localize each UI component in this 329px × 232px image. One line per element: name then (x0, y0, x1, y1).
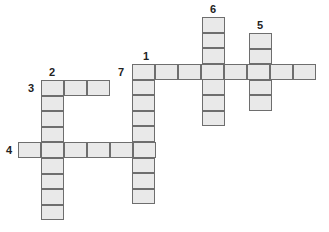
crossword-cell-3-across-2[interactable] (64, 80, 87, 96)
crossword-cell-7-across-2[interactable] (155, 64, 178, 80)
crossword-cell-5-down-2[interactable] (249, 49, 272, 65)
crossword-cell-1-down-9[interactable] (132, 189, 155, 205)
crossword-cell-6-down-7[interactable] (202, 111, 225, 127)
crossword-cell-4-across-1[interactable] (18, 142, 41, 158)
crossword-cell-1-down-1[interactable] (132, 64, 155, 80)
crossword-cell-1-down-2[interactable] (132, 80, 155, 96)
crossword-cell-5-down-5[interactable] (249, 95, 272, 111)
clue-number-7: 7 (118, 67, 124, 78)
crossword-cell-6-down-5[interactable] (202, 79, 225, 95)
crossword-cell-2-down-3[interactable] (41, 111, 64, 127)
crossword-cell-2-down-8[interactable] (41, 189, 64, 205)
crossword-cell-2-down-5[interactable] (41, 142, 64, 158)
crossword-cell-7-across-6[interactable] (247, 64, 270, 80)
clue-number-6: 6 (210, 4, 216, 15)
crossword-cell-2-down-1[interactable] (41, 80, 64, 96)
crossword-cell-2-down-7[interactable] (41, 174, 64, 190)
crossword-cell-4-across-3[interactable] (64, 142, 87, 158)
crossword-cell-1-down-4[interactable] (132, 111, 155, 127)
crossword-cell-7-across-7[interactable] (270, 64, 293, 80)
crossword-cell-2-down-2[interactable] (41, 96, 64, 112)
crossword-cell-2-down-6[interactable] (41, 158, 64, 174)
crossword-cell-1-down-7[interactable] (132, 158, 155, 174)
crossword-cell-1-down-5[interactable] (132, 126, 155, 142)
crossword-cell-1-down-3[interactable] (132, 95, 155, 111)
crossword-cell-7-across-4[interactable] (201, 64, 224, 80)
crossword-cell-4-across-6[interactable] (133, 142, 156, 158)
clue-number-2: 2 (49, 67, 55, 78)
clue-number-4: 4 (6, 145, 12, 156)
clue-number-1: 1 (143, 51, 149, 62)
crossword-cell-4-across-4[interactable] (87, 142, 110, 158)
crossword-cell-7-across-5[interactable] (224, 64, 247, 80)
crossword-cell-3-across-3[interactable] (87, 80, 110, 96)
crossword-cell-4-across-5[interactable] (110, 142, 133, 158)
crossword-cell-5-down-1[interactable] (249, 33, 272, 49)
crossword-cell-2-down-4[interactable] (41, 127, 64, 143)
crossword-cell-6-down-1[interactable] (202, 17, 225, 33)
clue-number-5: 5 (257, 20, 263, 31)
crossword-cell-1-down-8[interactable] (132, 173, 155, 189)
clue-number-3: 3 (28, 83, 34, 94)
crossword-cell-5-down-4[interactable] (249, 80, 272, 96)
crossword-cell-6-down-3[interactable] (202, 48, 225, 64)
crossword-cell-6-down-2[interactable] (202, 33, 225, 49)
crossword-cell-7-across-3[interactable] (178, 64, 201, 80)
crossword-cell-2-down-9[interactable] (41, 205, 64, 221)
crossword-cell-7-across-8[interactable] (293, 64, 316, 80)
crossword-cell-6-down-6[interactable] (202, 95, 225, 111)
